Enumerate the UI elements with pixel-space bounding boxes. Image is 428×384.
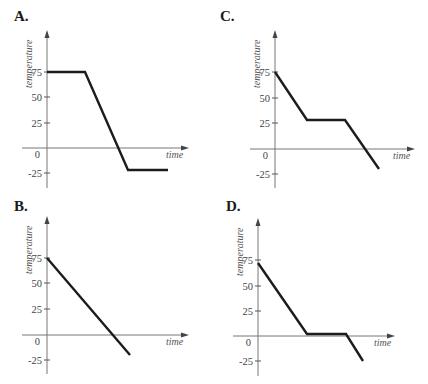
- chart-panel-b: B. 75 50 25 0 -25 temperature time: [0, 192, 214, 384]
- x-axis-label: time: [166, 336, 184, 347]
- x-axis-label: time: [393, 150, 411, 161]
- chart-c: 75 50 25 0 -25 temperature time: [214, 0, 428, 192]
- tick-0: 0: [263, 150, 268, 161]
- tick-50: 50: [260, 93, 271, 104]
- tick-neg25: -25: [256, 169, 270, 180]
- chart-d: 75 50 25 0 -25 temperature time: [214, 192, 428, 384]
- tick-50: 50: [32, 278, 43, 289]
- x-axis-label: time: [166, 149, 184, 160]
- temperature-curve: [275, 72, 379, 169]
- chart-b: 75 50 25 0 -25 temperature time: [0, 192, 214, 384]
- y-axis-label: temperature: [23, 39, 34, 88]
- tick-25: 25: [243, 306, 254, 317]
- chart-panel-d: D. 75 50 25 0 -25 temperature time: [214, 192, 428, 384]
- temperature-curve: [258, 263, 363, 361]
- temperature-curve: [47, 258, 130, 355]
- y-axis-arrow-icon: [45, 30, 50, 38]
- chart-panel-c: C. 75 50 25 0 -25 temperature time: [214, 0, 428, 192]
- tick-25: 25: [32, 304, 43, 315]
- chart-a: 75 50 25 0 -25 temperature time: [0, 0, 214, 192]
- x-axis-label: time: [374, 337, 392, 348]
- tick-neg25: -25: [28, 168, 42, 179]
- tick-neg25: -25: [239, 356, 253, 367]
- tick-0: 0: [246, 337, 251, 348]
- tick-0: 0: [35, 336, 40, 347]
- tick-25: 25: [32, 118, 43, 129]
- tick-50: 50: [243, 281, 254, 292]
- y-axis-arrow-icon: [273, 30, 278, 38]
- y-axis-arrow-icon: [256, 218, 261, 226]
- tick-50: 50: [32, 92, 43, 103]
- y-axis-arrow-icon: [45, 216, 50, 224]
- tick-25: 25: [260, 118, 271, 129]
- y-axis-label: temperature: [234, 227, 245, 276]
- temperature-curve: [47, 72, 168, 170]
- y-axis-label: temperature: [23, 225, 34, 274]
- chart-panel-a: A. 75 50 25 0 -25 temperature time: [0, 0, 214, 192]
- tick-0: 0: [35, 149, 40, 160]
- tick-neg25: -25: [28, 355, 42, 366]
- y-axis-label: temperature: [251, 39, 262, 88]
